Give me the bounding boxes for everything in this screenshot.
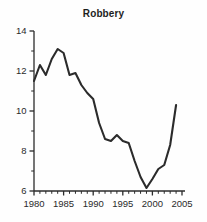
data-series-line bbox=[34, 49, 176, 188]
y-axis-ticks bbox=[30, 31, 35, 191]
x-tick-label: 1990 bbox=[83, 198, 104, 209]
axes: 68101214 198019851990199520002005 bbox=[16, 25, 193, 208]
robbery-line-chart: 68101214 198019851990199520002005 bbox=[0, 0, 207, 222]
y-axis-tick-labels: 68101214 bbox=[16, 25, 27, 196]
x-tick-label: 1980 bbox=[23, 198, 44, 209]
x-axis-ticks bbox=[34, 191, 182, 196]
y-tick-label: 6 bbox=[21, 185, 26, 196]
x-axis-tick-labels: 198019851990199520002005 bbox=[23, 198, 192, 209]
y-tick-label: 12 bbox=[16, 65, 27, 76]
y-tick-label: 8 bbox=[21, 145, 26, 156]
y-tick-label: 10 bbox=[16, 105, 27, 116]
x-tick-label: 1995 bbox=[112, 198, 133, 209]
x-tick-label: 2005 bbox=[171, 198, 192, 209]
x-tick-label: 1985 bbox=[53, 198, 74, 209]
chart-page: Robbery 68101214 19801985199019952000200… bbox=[0, 0, 207, 222]
y-tick-label: 14 bbox=[16, 25, 27, 36]
x-tick-label: 2000 bbox=[142, 198, 163, 209]
